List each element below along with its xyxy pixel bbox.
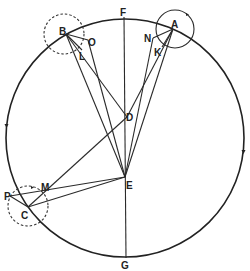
label-o: O <box>88 37 96 48</box>
line-c-d <box>28 117 127 207</box>
arrow-icon-right <box>242 150 246 154</box>
label-f: F <box>120 7 126 18</box>
line-b-e <box>66 34 125 177</box>
label-c: C <box>21 210 28 221</box>
label-b: B <box>59 26 66 37</box>
label-d: D <box>126 112 133 123</box>
line-b-d <box>66 34 127 117</box>
line-n-e <box>125 38 153 177</box>
line-f-g <box>124 17 126 258</box>
label-n: N <box>144 33 151 44</box>
line-a-e <box>125 29 173 177</box>
diagram-canvas: F G A B O L N K D E P M C <box>0 0 250 271</box>
label-k: K <box>154 47 162 58</box>
label-g: G <box>121 260 129 271</box>
label-e: E <box>126 180 133 191</box>
label-a: A <box>171 19 178 30</box>
label-p: P <box>4 191 11 202</box>
label-m: M <box>41 182 49 193</box>
line-p-e <box>10 177 125 196</box>
label-l: L <box>79 51 85 62</box>
line-o-e <box>88 40 125 177</box>
arrow-icon-left <box>5 124 9 128</box>
